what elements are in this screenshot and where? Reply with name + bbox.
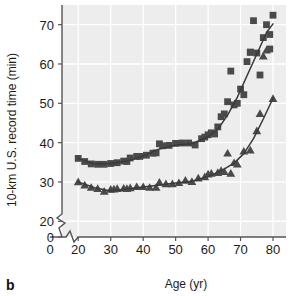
data-point-square (185, 140, 192, 147)
data-point-square (247, 49, 254, 56)
y-tick-label: 40 (40, 136, 54, 151)
y-tick-label: 50 (40, 96, 54, 111)
x-tick-label: 80 (266, 242, 280, 257)
data-point-square (257, 72, 264, 79)
x-axis-title: Age (yr) (165, 277, 208, 291)
y-tick-label: 20 (40, 214, 54, 229)
data-point-square (263, 21, 270, 28)
data-point-square (244, 58, 251, 65)
x-tick-label: 50 (168, 242, 182, 257)
x-tick-label: 60 (201, 242, 215, 257)
data-point-square (270, 12, 277, 19)
x-tick-label: 0 (46, 242, 53, 257)
data-point-square (224, 98, 231, 105)
y-tick-label: 60 (40, 57, 54, 72)
figure-panel-b: 0203040506070020304050607080 Age (yr) 10… (0, 0, 298, 296)
data-point-square (227, 68, 234, 75)
scatter-chart: 0203040506070020304050607080 Age (yr) 10… (0, 0, 298, 296)
x-tick-label: 20 (71, 242, 85, 257)
data-point-square (250, 17, 257, 24)
x-tick-label: 40 (136, 242, 150, 257)
y-axis-title: 10-km U.S. record time (min) (5, 53, 19, 207)
y-tick-label: 30 (40, 175, 54, 190)
plot-background (62, 5, 286, 237)
x-tick-label: 30 (103, 242, 117, 257)
panel-label: b (6, 277, 15, 293)
data-point-square (240, 91, 247, 98)
y-tick-label: 70 (40, 18, 54, 33)
x-tick-label: 70 (233, 242, 247, 257)
